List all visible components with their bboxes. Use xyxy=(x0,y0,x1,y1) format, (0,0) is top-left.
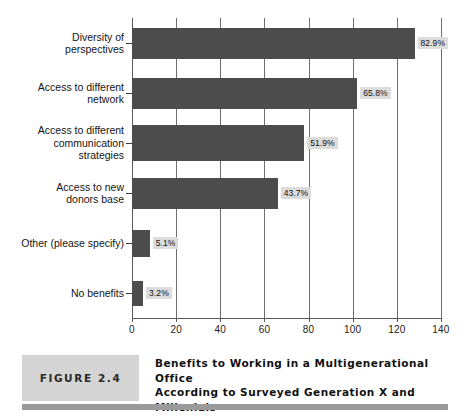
x-axis-tick-label: 20 xyxy=(170,324,182,335)
bar xyxy=(132,281,143,306)
gridline xyxy=(220,18,221,318)
x-axis-tick xyxy=(220,318,221,322)
gridline xyxy=(264,18,265,318)
category-label: Diversity of perspectives xyxy=(0,31,124,56)
bar-value-label: 82.9% xyxy=(418,37,449,49)
bottom-rule xyxy=(22,404,448,410)
figure-number-label: FIGURE 2.4 xyxy=(40,372,122,384)
category-label: Access to different network xyxy=(0,81,124,106)
figure-2-4: 020406080100120140 Diversity of perspect… xyxy=(0,0,470,419)
bar xyxy=(132,178,278,209)
category-label: Other (please specify) xyxy=(0,237,124,250)
bar xyxy=(132,230,150,257)
bar xyxy=(132,78,357,109)
gridline xyxy=(176,18,177,318)
bar-value-label: 51.9% xyxy=(307,137,338,149)
y-axis-line xyxy=(132,18,133,318)
x-axis-tick-label: 40 xyxy=(215,324,227,335)
gridline xyxy=(397,18,398,318)
plot-area xyxy=(132,18,441,318)
x-axis-tick xyxy=(441,318,442,322)
x-axis-tick xyxy=(132,318,133,322)
x-axis-tick-label: 140 xyxy=(432,324,449,335)
x-axis-tick-label: 100 xyxy=(344,324,361,335)
x-axis-tick xyxy=(353,318,354,322)
gridline xyxy=(353,18,354,318)
x-axis-tick xyxy=(176,318,177,322)
x-axis-line xyxy=(132,318,442,319)
x-axis-tick-label: 60 xyxy=(259,324,271,335)
bar xyxy=(132,28,415,59)
bar xyxy=(132,125,304,161)
bar-value-label: 65.8% xyxy=(360,87,391,99)
gridline xyxy=(441,18,442,318)
x-axis-tick-label: 0 xyxy=(129,324,135,335)
bar-value-label: 3.2% xyxy=(146,287,172,299)
figure-caption: FIGURE 2.4 Benefits to Working in a Mult… xyxy=(22,355,448,401)
bar-chart: 020406080100120140 Diversity of perspect… xyxy=(0,0,470,348)
gridline xyxy=(309,18,310,318)
category-label: No benefits xyxy=(0,287,124,300)
figure-number-badge: FIGURE 2.4 xyxy=(22,355,139,401)
x-axis-tick xyxy=(309,318,310,322)
x-axis-tick xyxy=(397,318,398,322)
x-axis-tick-label: 80 xyxy=(303,324,315,335)
bar-value-label: 43.7% xyxy=(281,187,312,199)
x-axis-tick xyxy=(264,318,265,322)
category-label: Access to new donors base xyxy=(0,181,124,206)
category-label: Access to different communication strate… xyxy=(0,124,124,162)
x-axis-tick-label: 120 xyxy=(388,324,405,335)
bar-value-label: 5.1% xyxy=(153,237,179,249)
